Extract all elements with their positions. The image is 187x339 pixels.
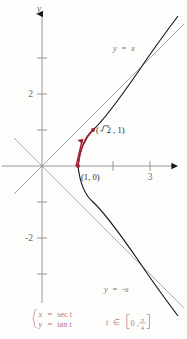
- parametric-plot: y 2 -2 3 y = x y = -x (1, 0) ( 2 , 1): [0, 0, 187, 339]
- svg-text:( 2 , 1): ( 2 , 1): [96, 125, 125, 135]
- asymptote-minus-label-eq: =: [112, 284, 117, 294]
- asymptote-label-y-equals-x: y = x: [112, 43, 135, 53]
- asymptote-label-y: y: [112, 43, 117, 53]
- sqrt2-radicand: 2: [107, 125, 111, 135]
- asymptote-minus-label-x: -x: [122, 284, 129, 294]
- caption-domain-upper-numerator: π: [141, 317, 144, 323]
- point-label-1-0: (1, 0): [81, 172, 100, 182]
- figure-container: y 2 -2 3 y = x y = -x (1, 0) ( 2 , 1): [0, 0, 187, 339]
- caption-x-sign: =: [47, 310, 52, 319]
- caption-domain: t ∈: [106, 318, 120, 327]
- point-dot-sqrt2-1: [91, 128, 95, 132]
- asymptote-label-x: x: [130, 43, 135, 53]
- caption-domain-lower-value: 0: [131, 319, 135, 328]
- asymptote-label-eq: =: [121, 43, 126, 53]
- caption-y-rhs: tan t: [57, 320, 72, 329]
- caption-domain-lower: 0 ,: [131, 319, 139, 328]
- plot-background: [0, 0, 187, 339]
- caption-y-sign: =: [47, 320, 52, 329]
- point-label-sqrt2-1: ( 2 , 1): [96, 125, 125, 135]
- y-tick-label-2: 2: [28, 89, 33, 99]
- caption-x-rhs: sec t: [57, 310, 73, 319]
- caption-x-lhs: x: [38, 310, 43, 319]
- point-dot-1-0: [76, 164, 80, 168]
- caption-domain-var: t: [106, 318, 109, 327]
- y-axis-label: y: [36, 4, 42, 14]
- sqrt2-rest: , 1): [113, 125, 125, 135]
- y-tick-label-neg2: -2: [25, 233, 33, 243]
- asymptote-label-y-equals-minus-x: y = -x: [103, 284, 129, 294]
- sqrt2-paren-open: (: [96, 125, 99, 135]
- caption-domain-upper-denominator: 4: [141, 325, 144, 331]
- asymptote-minus-label-y: y: [103, 284, 108, 294]
- x-tick-label-3: 3: [148, 172, 153, 182]
- caption-domain-in: ∈: [113, 318, 120, 327]
- caption-y-lhs: y: [38, 320, 43, 329]
